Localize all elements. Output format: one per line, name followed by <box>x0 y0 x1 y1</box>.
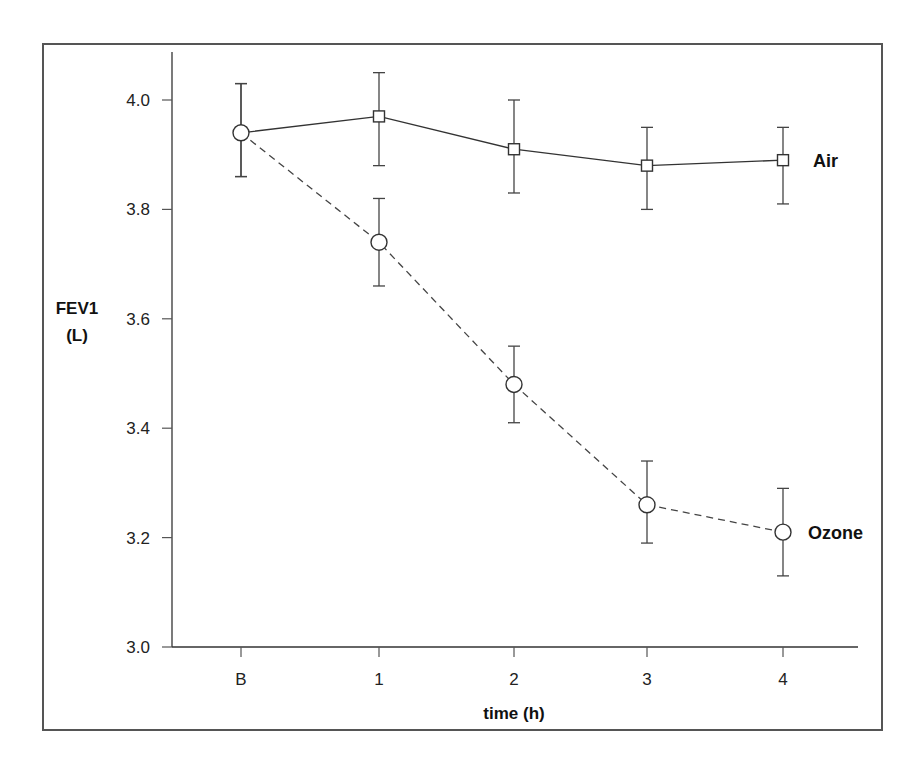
circle-marker <box>775 524 791 540</box>
x-tick-label: 4 <box>778 670 787 689</box>
y-tick-label: 3.2 <box>126 529 150 548</box>
circle-marker <box>639 497 655 513</box>
y-tick-label: 3.0 <box>126 638 150 657</box>
circle-marker <box>371 234 387 250</box>
chart-frame <box>43 44 882 730</box>
y-axis-label-line2: (L) <box>66 326 88 345</box>
series-air: Air <box>235 73 838 210</box>
chart: 3.03.23.43.63.84.0 B1234 FEV1 (L) time (… <box>0 0 916 769</box>
y-tick-label: 3.4 <box>126 419 150 438</box>
circle-marker <box>233 125 249 141</box>
x-axis-label: time (h) <box>483 704 544 723</box>
square-marker <box>642 160 653 171</box>
square-marker <box>374 111 385 122</box>
x-tick-label: 2 <box>509 670 518 689</box>
y-ticks: 3.03.23.43.63.84.0 <box>126 91 172 657</box>
x-tick-label: B <box>235 670 246 689</box>
air-line <box>241 116 783 165</box>
series-ozone: Ozone <box>233 84 863 576</box>
square-marker <box>509 144 520 155</box>
y-tick-label: 3.8 <box>126 200 150 219</box>
square-marker <box>778 155 789 166</box>
circle-marker <box>506 376 522 392</box>
y-tick-label: 3.6 <box>126 310 150 329</box>
axes: 3.03.23.43.63.84.0 B1234 FEV1 (L) time (… <box>56 52 858 723</box>
series-group: AirOzone <box>233 73 863 576</box>
y-axis-label-line1: FEV1 <box>56 299 99 318</box>
series-label-ozone: Ozone <box>808 523 863 543</box>
x-tick-label: 1 <box>374 670 383 689</box>
series-label-air: Air <box>813 151 838 171</box>
x-ticks: B1234 <box>235 647 787 689</box>
x-tick-label: 3 <box>642 670 651 689</box>
y-tick-label: 4.0 <box>126 91 150 110</box>
